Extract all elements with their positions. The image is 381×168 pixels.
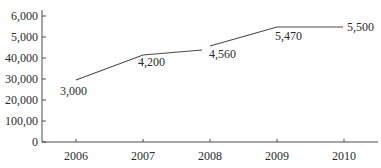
x-tick-label: 2007 xyxy=(131,149,155,163)
y-ticks xyxy=(42,16,46,142)
line-chart: 0 100,00 20,000 30,000 40,000 5,000 6,00… xyxy=(0,0,381,168)
y-tick-label: 30,000 xyxy=(5,72,38,86)
data-label: 3,000 xyxy=(60,84,87,98)
y-tick-label: 20,000 xyxy=(5,93,38,107)
y-tick-labels: 0 100,00 20,000 30,000 40,000 5,000 6,00… xyxy=(5,9,38,149)
x-tick-labels: 2006 2007 2008 2009 2010 xyxy=(64,149,356,163)
y-tick-label: 6,000 xyxy=(11,9,38,23)
y-tick-label: 0 xyxy=(32,135,38,149)
x-tick-label: 2009 xyxy=(265,149,289,163)
x-tick-label: 2010 xyxy=(332,149,356,163)
y-tick-label: 40,000 xyxy=(5,51,38,65)
x-tick-label: 2008 xyxy=(198,149,222,163)
data-labels: 3,000 4,200 4,560 5,470 5,500 xyxy=(60,20,374,98)
data-label: 4,560 xyxy=(209,47,236,61)
data-label: 5,470 xyxy=(275,29,302,43)
data-label: 5,500 xyxy=(347,20,374,34)
data-label: 4,200 xyxy=(138,55,165,69)
x-tick-label: 2006 xyxy=(64,149,88,163)
y-tick-label: 100,00 xyxy=(5,114,38,128)
y-tick-label: 5,000 xyxy=(11,30,38,44)
